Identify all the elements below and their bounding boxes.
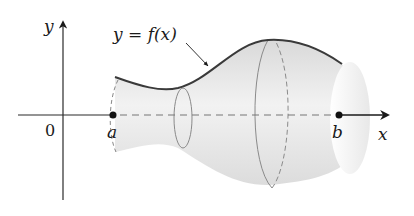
y-axis-label: y [43, 16, 54, 36]
solid-body [115, 40, 355, 185]
point-b [336, 112, 343, 119]
end-cap-b [330, 62, 370, 174]
curve-label: y = f(x) [112, 24, 177, 44]
point-a-label: a [107, 122, 117, 142]
point-b-label: b [332, 122, 343, 142]
solid-of-revolution-figure: y x 0 a b y = f(x) [0, 0, 414, 216]
curve-label-leader [186, 43, 208, 66]
point-a [110, 112, 117, 119]
origin-label: 0 [45, 121, 55, 140]
x-axis-label: x [378, 124, 388, 144]
diagram-canvas: y x 0 a b y = f(x) [0, 0, 414, 216]
